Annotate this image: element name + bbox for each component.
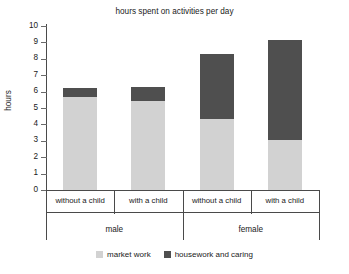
axis-divider <box>114 190 115 214</box>
bar-segment <box>63 88 97 97</box>
category-label: with a child <box>114 190 182 212</box>
y-axis-tick-label: 9 <box>8 37 38 46</box>
legend-swatch-icon <box>164 251 171 258</box>
bar <box>63 88 97 190</box>
category-label: without a child <box>46 190 114 212</box>
y-axis-tick-label: 5 <box>8 103 38 112</box>
y-axis-tick-label: 6 <box>8 86 38 95</box>
group-label: male <box>46 212 183 240</box>
bar-segment <box>131 87 165 102</box>
legend-label: housework and caring <box>175 250 253 259</box>
bar-segment <box>268 140 302 190</box>
chart-title: hours spent on activities per day <box>0 7 349 16</box>
legend-item: housework and caring <box>164 250 253 259</box>
bar-segment <box>200 119 234 190</box>
bar-segment <box>200 54 234 119</box>
axis-divider <box>46 190 47 240</box>
legend-swatch-icon <box>96 251 103 258</box>
bar <box>200 54 234 190</box>
category-label: with a child <box>251 190 319 212</box>
axis-divider <box>251 190 252 214</box>
chart-legend: market workhousework and caring <box>0 250 349 259</box>
y-axis-tick-label: 2 <box>8 152 38 161</box>
plot-area <box>46 26 318 190</box>
axis-divider <box>46 212 319 213</box>
y-axis-tick-label: 0 <box>8 185 38 194</box>
y-axis-label: hours <box>4 79 13 123</box>
category-axis-table: without a childwith a childwithout a chi… <box>46 190 319 240</box>
y-axis-tick-label: 1 <box>8 168 38 177</box>
bar <box>131 87 165 190</box>
y-axis-tick-label: 8 <box>8 53 38 62</box>
bar-segment <box>63 97 97 190</box>
bar-segment <box>268 40 302 140</box>
y-axis-tick-label: 4 <box>8 119 38 128</box>
group-label: female <box>183 212 320 240</box>
stacked-bar-chart: hours spent on activities per day hours … <box>0 0 349 274</box>
bar <box>268 40 302 190</box>
axis-divider <box>183 190 184 240</box>
y-axis-tick-label: 7 <box>8 70 38 79</box>
legend-item: market work <box>96 250 151 259</box>
legend-label: market work <box>107 250 151 259</box>
bar-segment <box>131 101 165 190</box>
category-label: without a child <box>183 190 251 212</box>
y-axis-tick-label: 10 <box>8 21 38 30</box>
y-axis-tick-label: 3 <box>8 135 38 144</box>
axis-divider <box>319 190 320 240</box>
